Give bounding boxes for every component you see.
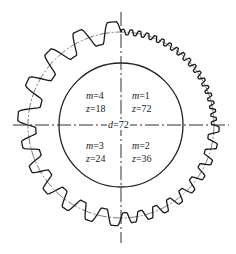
bl-module-text: m=3	[86, 140, 104, 151]
tr-module-text: m=1	[132, 90, 150, 101]
tl-teeth-text: z=18	[86, 103, 106, 114]
pitch-diameter-label: d=72	[107, 119, 130, 130]
tl-module-text: m=4	[86, 90, 104, 101]
br-teeth-text: z=36	[132, 153, 152, 164]
tr-teeth-text: z=72	[132, 103, 152, 114]
bl-teeth-text: z=24	[86, 153, 106, 164]
br-module-text: m=2	[132, 140, 150, 151]
